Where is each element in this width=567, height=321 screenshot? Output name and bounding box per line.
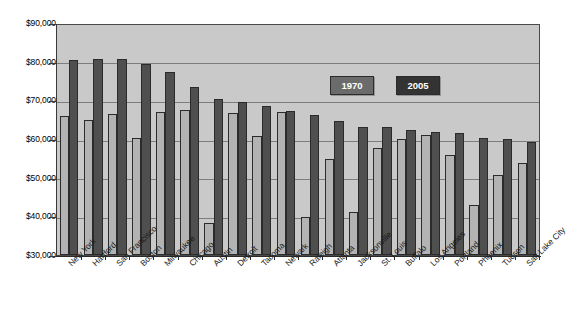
x-tick-mark bbox=[539, 256, 540, 260]
x-tick-mark bbox=[443, 256, 444, 260]
bar-1970-los-angeles bbox=[421, 135, 430, 255]
bar-2005-san-francisco bbox=[117, 59, 126, 255]
bar-2005-st-louis bbox=[382, 127, 391, 255]
x-tick-mark bbox=[419, 256, 420, 260]
x-tick-mark bbox=[491, 256, 492, 260]
bar-1970-detroit bbox=[228, 113, 237, 255]
bar-group bbox=[301, 25, 320, 255]
bar-1970-tacoma bbox=[252, 136, 261, 255]
bar-1970-boston bbox=[132, 138, 141, 255]
y-tick-mark bbox=[49, 101, 56, 102]
bar-group bbox=[397, 25, 416, 255]
bar-1970-hartford bbox=[84, 120, 93, 255]
x-tick-mark bbox=[370, 256, 371, 260]
y-tick-mark bbox=[49, 217, 56, 218]
bar-2005-milwaukee bbox=[165, 72, 174, 255]
y-axis-labels: $90,000$80,000$70,000$60,000$50,000$40,0… bbox=[0, 0, 56, 321]
y-tick-label: $70,000 bbox=[4, 95, 56, 105]
bar-group bbox=[469, 25, 488, 255]
bar-2005-new-york bbox=[69, 60, 78, 255]
x-tick-mark bbox=[250, 256, 251, 260]
legend-label-2005: 2005 bbox=[407, 80, 428, 91]
bar-2005-phoenix bbox=[479, 138, 488, 255]
y-tick-label: $60,000 bbox=[4, 134, 56, 144]
bars-layer bbox=[57, 25, 539, 255]
bar-1970-new-york bbox=[60, 116, 69, 255]
bar-2005-tucson bbox=[503, 139, 512, 255]
y-tick-label: $90,000 bbox=[4, 18, 56, 28]
bar-2005-jacksonville bbox=[358, 127, 367, 255]
bar-group bbox=[228, 25, 247, 255]
bar-group bbox=[445, 25, 464, 255]
x-tick-mark bbox=[274, 256, 275, 260]
bar-group bbox=[156, 25, 175, 255]
y-tick-mark bbox=[49, 63, 56, 64]
x-tick-mark bbox=[467, 256, 468, 260]
bar-group bbox=[518, 25, 537, 255]
bar-group bbox=[180, 25, 199, 255]
bar-2005-salt-lake-city bbox=[527, 142, 536, 255]
bar-1970-st-louis bbox=[373, 148, 382, 255]
bar-1970-atlanta bbox=[325, 159, 334, 255]
bar-2005-newark bbox=[286, 111, 295, 255]
bar-1970-tucson bbox=[493, 175, 502, 255]
bar-1970-jacksonville bbox=[349, 212, 358, 255]
x-tick-mark bbox=[515, 256, 516, 260]
x-tick-mark bbox=[226, 256, 227, 260]
x-tick-mark bbox=[81, 256, 82, 260]
bar-group bbox=[108, 25, 127, 255]
x-tick-mark bbox=[202, 256, 203, 260]
bar-group bbox=[252, 25, 271, 255]
x-tick-mark bbox=[298, 256, 299, 260]
bar-1970-austin bbox=[204, 223, 213, 255]
bar-group bbox=[84, 25, 103, 255]
x-tick-mark bbox=[394, 256, 395, 260]
bar-2005-buffalo bbox=[406, 130, 415, 255]
bar-1970-newark bbox=[277, 112, 286, 255]
y-tick-label: $40,000 bbox=[4, 211, 56, 221]
x-tick-mark bbox=[129, 256, 130, 260]
x-tick-mark bbox=[346, 256, 347, 260]
x-tick-mark bbox=[178, 256, 179, 260]
legend-key-1970: 1970 bbox=[330, 76, 374, 95]
bar-2005-chicago bbox=[190, 87, 199, 255]
bar-group bbox=[60, 25, 79, 255]
y-tick-mark bbox=[49, 256, 56, 257]
bar-2005-hartford bbox=[93, 59, 102, 255]
bar-1970-milwaukee bbox=[156, 112, 165, 255]
bar-group bbox=[132, 25, 151, 255]
legend-key-2005: 2005 bbox=[396, 76, 440, 95]
bar-group bbox=[373, 25, 392, 255]
bar-1970-chicago bbox=[180, 110, 189, 255]
bar-group bbox=[277, 25, 296, 255]
y-tick-label: $50,000 bbox=[4, 173, 56, 183]
y-tick-mark bbox=[49, 24, 56, 25]
bar-2005-atlanta bbox=[334, 121, 343, 255]
y-tick-label: $30,000 bbox=[4, 250, 56, 260]
bar-1970-raleigh bbox=[301, 217, 310, 255]
x-tick-mark bbox=[153, 256, 154, 260]
y-tick-mark bbox=[49, 179, 56, 180]
bar-2005-austin bbox=[214, 99, 223, 255]
bar-2005-detroit bbox=[238, 102, 247, 255]
x-tick-mark bbox=[322, 256, 323, 260]
chart-legend: 1970 2005 bbox=[330, 76, 440, 95]
bar-1970-salt-lake-city bbox=[518, 163, 527, 255]
bar-group bbox=[325, 25, 344, 255]
bar-group bbox=[349, 25, 368, 255]
y-tick-label: $80,000 bbox=[4, 57, 56, 67]
y-tick-mark bbox=[49, 140, 56, 141]
bar-1970-portland bbox=[445, 155, 454, 255]
bar-2005-boston bbox=[141, 64, 150, 255]
bar-group bbox=[493, 25, 512, 255]
bar-1970-san-francisco bbox=[108, 114, 117, 255]
bar-2005-portland bbox=[455, 133, 464, 255]
bar-2005-los-angeles bbox=[431, 132, 440, 255]
bar-group bbox=[204, 25, 223, 255]
bar-1970-buffalo bbox=[397, 139, 406, 255]
bar-2005-raleigh bbox=[310, 115, 319, 255]
bar-2005-tacoma bbox=[262, 106, 271, 255]
legend-label-1970: 1970 bbox=[341, 80, 362, 91]
bar-1970-phoenix bbox=[469, 205, 478, 255]
